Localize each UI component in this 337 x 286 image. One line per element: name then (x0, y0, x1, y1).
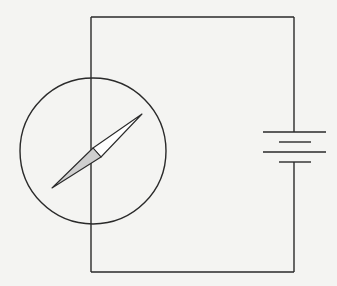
circuit-diagram (0, 0, 337, 286)
battery-icon (263, 132, 326, 162)
compass-icon (20, 78, 166, 224)
circuit-wire (91, 17, 294, 272)
compass-needle (52, 114, 142, 188)
